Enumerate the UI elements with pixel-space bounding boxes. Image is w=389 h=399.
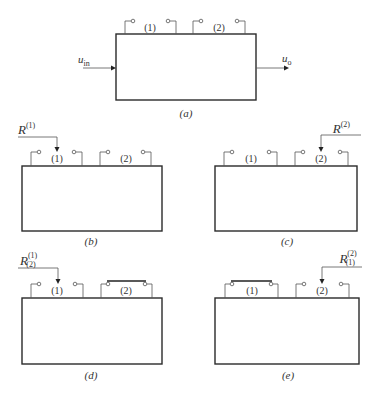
port-1: (1) — [31, 150, 82, 166]
port-label: (1) — [246, 285, 258, 297]
port-label: (2) — [120, 285, 132, 297]
terminal-node — [199, 19, 203, 23]
terminal-wire — [77, 284, 83, 298]
terminal-node — [269, 282, 273, 286]
port-1: (1) — [125, 19, 176, 34]
terminal-wire — [225, 284, 230, 298]
port-label: (1) — [144, 22, 156, 34]
terminal-node — [143, 282, 147, 286]
terminal-wire — [76, 152, 82, 166]
input-signal: uin — [78, 53, 116, 71]
network-box — [116, 34, 256, 100]
terminal-wire — [224, 152, 230, 166]
port-label: (2) — [213, 22, 225, 34]
port-label: (1) — [51, 153, 63, 165]
panel-a: (1) (2) uin uo (a) — [78, 19, 292, 120]
resistance-probe: R(1) — [17, 121, 60, 152]
terminal-node — [338, 150, 342, 154]
terminal-node — [267, 150, 271, 154]
terminal-wire — [273, 284, 278, 298]
port-label: (1) — [245, 153, 257, 165]
network-box — [22, 298, 162, 364]
terminal-node — [301, 150, 305, 154]
terminal-node — [302, 282, 306, 286]
terminal-node — [235, 19, 239, 23]
terminal-wire — [147, 284, 152, 298]
panel-c: (1) (2) R(2) (c) — [215, 120, 361, 248]
terminal-wire — [296, 284, 302, 298]
terminal-node — [166, 19, 170, 23]
panel-caption: (a) — [180, 107, 193, 120]
probe-line — [322, 267, 362, 280]
arrow-head-icon — [56, 279, 61, 284]
panel-b: (1) (2) R(1) (b) — [17, 121, 162, 248]
two-port-network-diagram: (1) (2) uin uo (a) — [0, 0, 389, 399]
terminal-wire — [271, 152, 277, 166]
terminal-node — [106, 150, 110, 154]
arrow-head-icon — [111, 66, 116, 71]
terminal-node — [73, 282, 77, 286]
panel-caption: (c) — [281, 235, 294, 248]
terminal-wire — [295, 152, 301, 166]
terminal-wire — [100, 152, 106, 166]
network-box — [22, 166, 162, 231]
output-signal: uo — [256, 52, 292, 71]
port-2: (2) — [295, 150, 348, 166]
port-2: (2) — [193, 19, 245, 34]
panel-e: (1) (2) R(2)(1) (e) — [215, 249, 362, 382]
probe-line — [321, 135, 361, 148]
terminal-wire — [343, 284, 349, 298]
panel-caption: (b) — [85, 235, 98, 248]
terminal-node — [141, 150, 145, 154]
port-label: (1) — [51, 285, 63, 297]
port-label: (2) — [315, 153, 327, 165]
network-box — [215, 298, 359, 364]
input-signal-label: uin — [78, 53, 90, 68]
panel-caption: (d) — [85, 369, 98, 382]
port-2: (2) — [100, 150, 151, 166]
arrow-head-icon — [55, 147, 60, 152]
terminal-wire — [170, 21, 176, 34]
probe-label: R(1) — [17, 121, 36, 137]
port-1: (1) — [31, 282, 83, 298]
panel-d: (1) (2) R(1)(2) (d) — [18, 251, 162, 382]
port-2-shorted: (2) — [101, 281, 152, 298]
terminal-node — [37, 282, 41, 286]
resistance-probe: R(2) — [319, 120, 362, 152]
output-signal-label: uo — [282, 52, 292, 67]
terminal-wire — [101, 284, 106, 298]
terminal-wire — [193, 21, 199, 34]
terminal-node — [339, 282, 343, 286]
terminal-node — [230, 150, 234, 154]
port-2: (2) — [296, 282, 349, 298]
arrow-head-icon — [320, 279, 325, 284]
probe-line — [18, 268, 58, 280]
terminal-wire — [342, 152, 348, 166]
probe-label: R(2) — [332, 120, 351, 136]
terminal-node — [72, 150, 76, 154]
terminal-node — [37, 150, 41, 154]
resistance-probe: R(2)(1) — [320, 249, 363, 284]
terminal-wire — [31, 152, 37, 166]
terminal-wire — [239, 21, 245, 34]
arrow-head-icon — [319, 147, 324, 152]
probe-label: R(2)(1) — [338, 249, 357, 267]
resistance-probe: R(1)(2) — [18, 251, 61, 284]
port-label: (2) — [120, 153, 132, 165]
port-1: (1) — [224, 150, 277, 166]
terminal-node — [230, 282, 234, 286]
terminal-node — [106, 282, 110, 286]
network-box — [215, 166, 357, 231]
terminal-wire — [31, 284, 37, 298]
probe-label: R(1)(2) — [19, 251, 38, 269]
terminal-node — [131, 19, 135, 23]
panel-caption: (e) — [282, 369, 295, 382]
probe-line — [18, 137, 57, 148]
port-label: (2) — [316, 285, 328, 297]
port-1-shorted: (1) — [225, 281, 278, 298]
terminal-wire — [145, 152, 151, 166]
terminal-wire — [125, 21, 131, 34]
